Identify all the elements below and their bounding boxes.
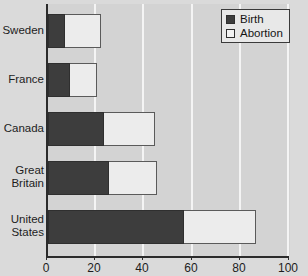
bar-segment-france-abortion[interactable] xyxy=(70,63,97,97)
tick-mark-100 xyxy=(288,256,289,260)
bar-row-great-britain[interactable] xyxy=(48,161,157,195)
bar-segment-sweden-birth[interactable] xyxy=(48,14,65,48)
y-axis-label-great-britain-line2: Britain xyxy=(0,177,44,190)
x-tick-label-0: 0 xyxy=(26,261,66,275)
bar-segment-canada-abortion[interactable] xyxy=(104,112,155,146)
tick-mark-40 xyxy=(142,256,143,260)
y-axis-label-united-states-line2: States xyxy=(0,226,44,239)
y-axis-label-sweden-line1: Sweden xyxy=(0,24,44,37)
bar-segment-sweden-abortion[interactable] xyxy=(65,14,101,48)
y-axis-label-great-britain-line1: Great xyxy=(0,164,44,177)
tick-mark-60 xyxy=(191,256,192,260)
y-axis-label-france-line1: France xyxy=(0,73,44,86)
bar-segment-united-states-abortion[interactable] xyxy=(184,210,256,244)
light-square-swatch-icon xyxy=(226,29,235,38)
y-axis-label-canada: Canada xyxy=(0,122,44,135)
tick-mark-20 xyxy=(94,256,95,260)
tick-mark-80 xyxy=(239,256,240,260)
y-axis-label-sweden: Sweden xyxy=(0,24,44,37)
bar-segment-france-birth[interactable] xyxy=(48,63,70,97)
x-tick-label-20: 20 xyxy=(74,261,114,275)
tick-mark-0 xyxy=(46,256,47,260)
y-axis-label-france: France xyxy=(0,73,44,86)
x-tick-label-60: 60 xyxy=(171,261,211,275)
bar-row-sweden[interactable] xyxy=(48,14,101,48)
bar-segment-great-britain-abortion[interactable] xyxy=(109,161,157,195)
legend-label-birth: Birth xyxy=(240,13,264,25)
legend-entry-birth[interactable]: Birth xyxy=(226,13,283,25)
x-tick-label-80: 80 xyxy=(219,261,259,275)
x-tick-label-100: 100 xyxy=(268,261,308,275)
plot-area: Birth Abortion xyxy=(46,4,290,256)
stacked-bar-chart: Birth Abortion 0 20 40 60 80 100 Sweden … xyxy=(0,0,308,276)
bar-row-united-states[interactable] xyxy=(48,210,256,244)
chart-legend: Birth Abortion xyxy=(221,9,290,43)
bar-segment-united-states-birth[interactable] xyxy=(48,210,184,244)
bar-segment-great-britain-birth[interactable] xyxy=(48,161,109,195)
y-axis-label-canada-line1: Canada xyxy=(0,122,44,135)
y-axis-label-great-britain: Great Britain xyxy=(0,164,44,190)
x-tick-label-40: 40 xyxy=(122,261,162,275)
legend-label-abortion: Abortion xyxy=(240,27,283,39)
legend-entry-abortion[interactable]: Abortion xyxy=(226,27,283,39)
y-axis-label-united-states: United States xyxy=(0,213,44,239)
dark-square-swatch-icon xyxy=(226,15,235,24)
x-axis-line xyxy=(46,256,289,258)
bar-row-france[interactable] xyxy=(48,63,97,97)
bar-row-canada[interactable] xyxy=(48,112,155,146)
y-axis-label-united-states-line1: United xyxy=(0,213,44,226)
bar-segment-canada-birth[interactable] xyxy=(48,112,104,146)
